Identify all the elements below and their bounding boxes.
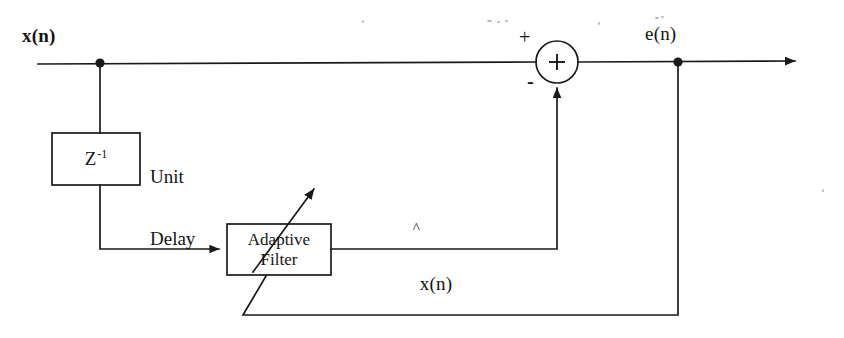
unit-delay-caption-line1: Unit	[150, 167, 195, 188]
signal-path-error-feedback	[243, 62, 678, 315]
scan-speck	[661, 16, 664, 18]
summer-plus-glyph	[549, 54, 565, 70]
unit-delay-caption: Unit Delay	[150, 126, 195, 290]
signal-path-summer-to-output	[578, 61, 795, 62]
input-signal-label: x(n)	[22, 26, 56, 47]
scan-speck	[487, 20, 492, 22]
scan-speck	[505, 20, 508, 22]
summer-negative-sign-label: -	[527, 76, 534, 86]
signal-path-input-to-summer	[38, 62, 536, 64]
scan-speck	[655, 17, 659, 19]
scan-speck	[362, 20, 364, 23]
error-signal-label: e(n)	[645, 24, 676, 45]
input-tap-node	[95, 58, 104, 67]
predicted-signal-text: x(n)	[420, 273, 452, 294]
scan-speck	[497, 21, 500, 23]
adaptive-filter-label-line2: Filter	[261, 250, 298, 269]
predicted-signal-label: ^ x(n)	[390, 212, 452, 335]
adaptive-filter-label: Adaptive Filter	[227, 224, 331, 275]
unit-delay-caption-line2: Delay	[150, 229, 195, 250]
scan-speck	[822, 189, 824, 192]
error-tap-node	[673, 57, 682, 66]
scan-speck	[598, 22, 600, 25]
delay-block-exponent: -1	[97, 147, 107, 161]
delay-block-base: Z	[85, 148, 97, 169]
adaptive-filter-label-line1: Adaptive	[248, 230, 310, 249]
hat-accent-glyph: ^	[413, 220, 420, 236]
diagram-canvas: x(n) e(n) ^ x(n) Z-1 Unit Delay Adaptive…	[0, 0, 844, 338]
unit-delay-block-label: Z-1	[52, 133, 140, 185]
summer-positive-sign-label: +	[519, 27, 530, 49]
